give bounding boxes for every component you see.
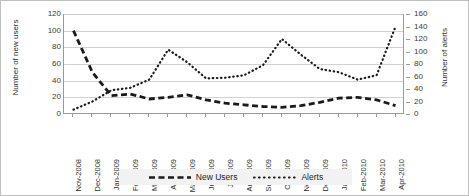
dotted-line-icon bbox=[253, 173, 297, 182]
x-axis-tick-mark bbox=[110, 114, 111, 117]
x-axis-tick-mark bbox=[262, 114, 263, 117]
x-axis-tick-label: Apr-2010 bbox=[398, 159, 406, 190]
x-axis-tick-mark bbox=[319, 114, 320, 117]
y-axis-right-tick-mark bbox=[406, 64, 410, 65]
x-axis-tick-mark bbox=[281, 114, 282, 117]
y-axis-left-tick-label: 120 bbox=[35, 10, 61, 18]
x-axis-tick-mark bbox=[376, 114, 377, 117]
x-axis-tick-label: Feb-2010 bbox=[360, 159, 368, 191]
x-axis-tick-mark bbox=[72, 114, 73, 117]
x-axis-tick-mark bbox=[224, 114, 225, 117]
series-lines bbox=[64, 14, 405, 114]
x-axis-tick-mark bbox=[148, 114, 149, 117]
x-axis-tick-mark bbox=[167, 114, 168, 117]
x-axis-tick-mark bbox=[243, 114, 244, 117]
x-axis-tick-mark bbox=[395, 114, 396, 117]
y-axis-right-tick-label: 160 bbox=[414, 10, 438, 18]
x-axis-tick-mark bbox=[338, 114, 339, 117]
x-axis-tick-mark bbox=[205, 114, 206, 117]
y-axis-right-tick-label: 100 bbox=[414, 48, 438, 56]
y-axis-right-tick-label: 60 bbox=[414, 73, 438, 81]
y-axis-right-tick-label: 80 bbox=[414, 60, 438, 68]
plot-area bbox=[63, 14, 404, 114]
y-axis-left-tick-label: 0 bbox=[35, 110, 61, 118]
y-axis-right-tick-mark bbox=[406, 114, 410, 115]
x-axis-tick-mark bbox=[91, 114, 92, 117]
y-axis-right-title: Number of alerts bbox=[440, 10, 449, 106]
legend-item-new-users[interactable]: New Users bbox=[148, 173, 238, 182]
y-axis-right-tick-mark bbox=[406, 14, 410, 15]
chart-container: Number of new users 020406080100120 0204… bbox=[0, 0, 469, 196]
y-axis-left-tick-label: 20 bbox=[35, 93, 61, 101]
legend-label-new-users: New Users bbox=[196, 173, 238, 182]
legend-label-alerts: Alerts bbox=[301, 173, 323, 182]
y-axis-right-tick-label: 40 bbox=[414, 85, 438, 93]
y-axis-right-tick-label: 0 bbox=[414, 110, 438, 118]
x-axis-tick-label: Mar-2010 bbox=[379, 159, 387, 191]
x-axis-tick-label: Nov-2008 bbox=[75, 159, 83, 192]
y-axis-right-tick-mark bbox=[406, 52, 410, 53]
y-axis-right-tick-mark bbox=[406, 102, 410, 103]
x-axis-tick-label: Dec-2008 bbox=[94, 159, 102, 192]
legend-item-alerts[interactable]: Alerts bbox=[253, 173, 323, 182]
y-axis-left-tick-label: 40 bbox=[35, 77, 61, 85]
x-axis-labels: Nov-2008Dec-2008Jan-2009Feb-2009Mar-2009… bbox=[63, 117, 404, 161]
chart-legend: New Users Alerts bbox=[119, 169, 352, 185]
x-axis-tick-mark bbox=[129, 114, 130, 117]
y-axis-left-ticks: 020406080100120 bbox=[31, 1, 61, 127]
y-axis-left-title: Number of new users bbox=[11, 10, 20, 106]
y-axis-right-tick-mark bbox=[406, 39, 410, 40]
y-axis-right-tick-mark bbox=[406, 89, 410, 90]
x-axis-tick-mark bbox=[186, 114, 187, 117]
y-axis-right-tick-mark bbox=[406, 27, 410, 28]
y-axis-right-tick-label: 20 bbox=[414, 98, 438, 106]
y-axis-right-ticks: 020406080100120140160 bbox=[406, 1, 432, 127]
y-axis-left-tick-label: 60 bbox=[35, 60, 61, 68]
y-axis-right-tick-label: 120 bbox=[414, 35, 438, 43]
y-axis-left-tick-label: 80 bbox=[35, 43, 61, 51]
series-line-new-users bbox=[73, 31, 395, 108]
dashed-line-icon bbox=[148, 173, 192, 182]
y-axis-left-tick-label: 100 bbox=[35, 27, 61, 35]
x-axis-tick-mark bbox=[357, 114, 358, 117]
y-axis-right-tick-mark bbox=[406, 77, 410, 78]
y-axis-right-tick-label: 140 bbox=[414, 23, 438, 31]
x-axis-tick-mark bbox=[300, 114, 301, 117]
